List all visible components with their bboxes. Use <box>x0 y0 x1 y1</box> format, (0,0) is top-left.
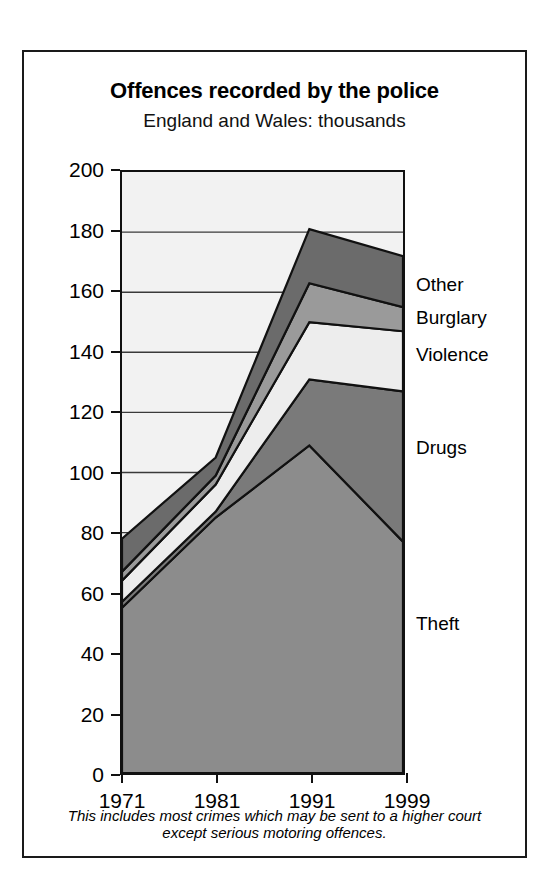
y-axis-tick-mark <box>111 593 120 595</box>
series-labels: OtherBurglaryViolenceDrugsTheft <box>416 162 546 782</box>
y-axis-tick-label: 0 <box>92 763 104 787</box>
y-axis: 020406080100120140160180200 <box>24 162 112 782</box>
y-axis-tick-label: 200 <box>69 158 104 182</box>
x-axis-tick-mark <box>406 773 408 783</box>
y-axis-tick-mark <box>111 351 120 353</box>
y-axis-tick-label: 120 <box>69 400 104 424</box>
y-axis-tick-mark <box>111 411 120 413</box>
footnote-line-1: This includes most crimes which may be s… <box>42 807 507 825</box>
y-axis-tick-label: 160 <box>69 279 104 303</box>
y-axis-tick-mark <box>111 653 120 655</box>
series-label-burglary: Burglary <box>416 307 487 329</box>
series-label-drugs: Drugs <box>416 437 467 459</box>
y-axis-tick-label: 140 <box>69 340 104 364</box>
series-label-theft: Theft <box>416 613 459 635</box>
footnote-line-2: except serious motoring offences. <box>42 824 507 842</box>
chart-subtitle: England and Wales: thousands <box>24 110 525 132</box>
stacked-area-svg <box>122 172 403 773</box>
series-label-violence: Violence <box>416 344 489 366</box>
x-axis-tick-mark <box>311 773 313 783</box>
y-axis-tick-mark <box>111 169 120 171</box>
y-axis-tick-label: 80 <box>81 521 104 545</box>
chart-figure: Offences recorded by the police England … <box>22 50 527 858</box>
y-axis-tick-mark <box>111 472 120 474</box>
y-axis-tick-mark <box>111 230 120 232</box>
y-axis-tick-label: 180 <box>69 219 104 243</box>
y-axis-tick-label: 40 <box>81 642 104 666</box>
y-axis-tick-label: 100 <box>69 461 104 485</box>
series-label-other: Other <box>416 274 464 296</box>
y-axis-tick-label: 60 <box>81 582 104 606</box>
chart-title: Offences recorded by the police <box>24 78 525 104</box>
y-axis-tick-label: 20 <box>81 703 104 727</box>
chart-footnote: This includes most crimes which may be s… <box>42 807 507 842</box>
y-axis-tick-mark <box>111 714 120 716</box>
x-axis-tick-mark <box>121 773 123 783</box>
y-axis-tick-mark <box>111 532 120 534</box>
x-axis-tick-mark <box>216 773 218 783</box>
plot-area <box>120 170 405 775</box>
y-axis-tick-mark <box>111 290 120 292</box>
